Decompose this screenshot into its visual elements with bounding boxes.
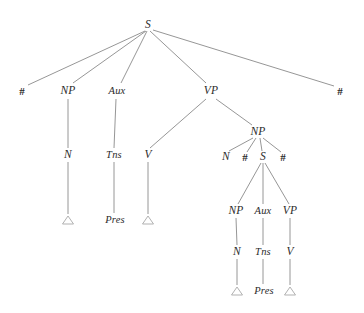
- elided-subtree-triangle: [232, 287, 243, 295]
- syntax-tree-diagram: S#NPAuxVP#NTnsVNPN#S#NPAuxVPNTnsVPresPre…: [0, 0, 364, 313]
- tree-node-n-1: N: [64, 149, 72, 161]
- tree-node-tns-1: Tns: [106, 149, 122, 161]
- tree-node-hash-left: #: [19, 86, 25, 98]
- elided-subtree-triangle: [143, 216, 154, 224]
- tree-edge: [236, 218, 237, 245]
- tree-edge: [73, 31, 146, 83]
- elided-subtree-triangle: [285, 287, 296, 295]
- tree-node-np-3: NP: [228, 205, 243, 217]
- tree-node-pres-2: Pres: [254, 285, 274, 297]
- tree-edge: [216, 99, 252, 125]
- tree-node-tns-2: Tns: [255, 246, 271, 258]
- tree-edges-layer: [0, 0, 364, 313]
- tree-node-vp-1: VP: [204, 85, 218, 97]
- tree-edge: [260, 138, 262, 151]
- tree-node-np-2: NP: [250, 126, 265, 138]
- tree-node-s-inner: S: [260, 151, 266, 163]
- tree-edge: [238, 163, 261, 204]
- tree-node-pres-1: Pres: [105, 214, 125, 226]
- tree-node-n-3: N: [233, 246, 241, 258]
- tree-node-v-1: V: [144, 149, 151, 161]
- tree-node-vp-2: VP: [283, 205, 297, 217]
- tree-node-hash-right: #: [337, 86, 343, 98]
- tree-edge: [28, 31, 145, 85]
- tree-node-v-2: V: [286, 246, 293, 258]
- tree-node-n-2: N: [222, 151, 230, 163]
- tree-node-s-root: S: [145, 19, 151, 31]
- tree-node-hash-inner-l: #: [242, 152, 248, 164]
- tree-node-aux-1: Aux: [109, 85, 126, 97]
- tree-node-hash-inner-r: #: [280, 152, 286, 164]
- tree-edge: [150, 99, 206, 148]
- tree-node-np-1: NP: [60, 85, 75, 97]
- tree-edge: [121, 31, 147, 83]
- tree-edge: [114, 99, 116, 148]
- elided-subtree-triangle: [63, 216, 74, 224]
- tree-node-aux-2: Aux: [255, 205, 272, 217]
- tree-edge: [153, 30, 334, 86]
- tree-edge: [150, 31, 206, 83]
- tree-edge: [265, 163, 289, 204]
